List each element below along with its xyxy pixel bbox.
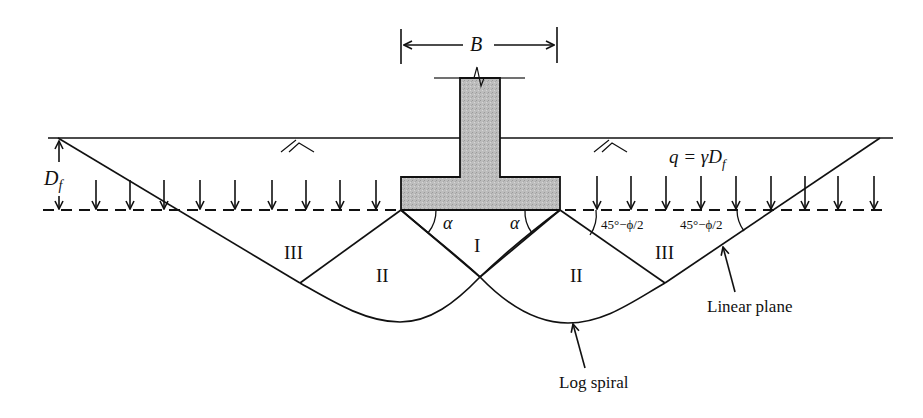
width-label: B (470, 34, 482, 54)
passive-angle-label-1: 45°−ϕ/2 (601, 218, 644, 231)
depth-label: Df (44, 168, 62, 193)
surcharge-label-sub: f (722, 156, 726, 171)
surcharge-label-main: q = γD (669, 146, 722, 167)
zone-3-left-label: III (284, 243, 303, 262)
ground-symbol-icon (281, 140, 627, 152)
zone-2-right-label: II (570, 266, 583, 285)
failure-diagram (0, 0, 923, 418)
zone-3-right-label: III (655, 243, 674, 262)
log-spiral-label: Log spiral (559, 374, 628, 391)
passive-angle-label-2: 45°−ϕ/2 (680, 218, 723, 231)
depth-label-main: D (44, 167, 58, 189)
depth-label-sub: f (58, 178, 62, 193)
alpha-right-label: α (510, 214, 519, 232)
surcharge-arrows-right (597, 176, 874, 209)
surcharge-arrows-left (96, 180, 376, 209)
alpha-left-label: α (443, 214, 452, 232)
linear-plane-label: Linear plane (707, 298, 792, 315)
zone-2-left-label: II (376, 266, 389, 285)
surcharge-label: q = γDf (669, 147, 726, 170)
zone-1-label: I (474, 236, 480, 255)
